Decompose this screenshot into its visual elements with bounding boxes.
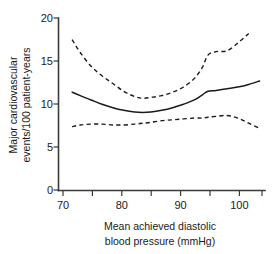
x-tick-label-100: 100 [230,199,248,211]
x-tick-label-80: 80 [116,199,128,211]
cardiovascular-risk-j-curve-chart: Major cardiovascular events/100 patient-… [0,0,274,254]
x-tick-label-70: 70 [57,199,69,211]
y-tick-label-15: 15 [41,55,53,67]
y-tick-label-20: 20 [41,12,53,24]
y-axis-title: Major cardiovascular events/100 patient-… [7,48,32,163]
upper-confidence-limit-curve [72,34,249,99]
lower-confidence-limit-curve [72,115,259,128]
y-tick-label-10: 10 [41,98,53,110]
curve-layer [72,34,259,129]
y-tick-label-0: 0 [47,184,53,196]
y-tick-label-5: 5 [47,141,53,153]
x-tick-label-90: 90 [174,199,186,211]
x-axis [59,191,266,197]
y-axis [54,18,59,191]
x-axis-title-line1: Mean achieved diastolic [104,220,216,232]
x-axis-title: Mean achieved diastolic blood pressure (… [104,220,216,247]
chart-figure: Major cardiovascular events/100 patient-… [0,0,274,254]
y-axis-title-line2: events/100 patient-years [20,48,32,163]
y-axis-title-line1: Major cardiovascular [7,56,19,153]
x-axis-title-line2: blood pressure (mmHg) [105,235,215,247]
fitted-risk-curve [72,81,259,112]
